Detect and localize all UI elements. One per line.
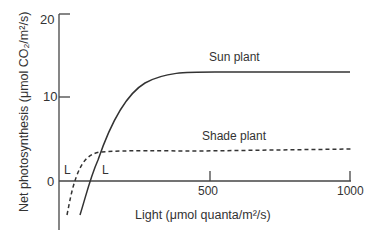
- shade-plant-curve: [67, 149, 351, 215]
- x-tick-label-500: 500: [198, 184, 218, 198]
- y-axis-label: Net photosynthesis (μmol CO₂/m²/s): [17, 12, 31, 212]
- y-tick-label-10: 10: [43, 89, 57, 104]
- photosynthesis-chart: 20 10 0 500 1000 Light (μmol quanta/m²/s…: [0, 0, 383, 241]
- shade-plant-label: Shade plant: [202, 129, 267, 143]
- x-tick-label-1000: 1000: [337, 184, 364, 198]
- y-tick-label-0: 0: [47, 174, 54, 189]
- sun-plant-label: Sun plant: [209, 50, 260, 64]
- compensation-point-label-sun: L: [102, 163, 109, 177]
- y-tick-label-20: 20: [40, 12, 54, 27]
- compensation-point-label-shade: L: [64, 163, 71, 177]
- x-axis-label: Light (μmol quanta/m²/s): [135, 208, 271, 222]
